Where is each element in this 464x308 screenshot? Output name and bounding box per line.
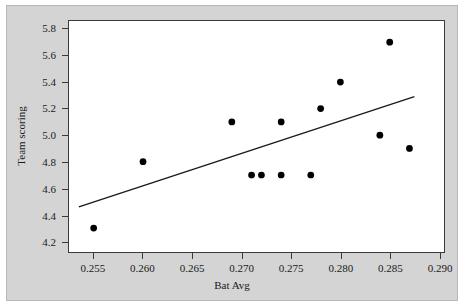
y-axis-tick-mark <box>62 82 68 83</box>
data-point <box>307 172 314 179</box>
regression-line <box>79 97 415 207</box>
x-axis-tick-mark <box>142 253 143 259</box>
y-axis-tick-label: 5.4 <box>22 76 56 88</box>
x-axis-tick-label: 0.260 <box>130 262 155 274</box>
y-axis-tick-mark <box>62 189 68 190</box>
y-axis-tick-mark <box>62 108 68 109</box>
data-point <box>140 158 147 165</box>
y-axis-tick-label: 5.6 <box>22 49 56 61</box>
x-axis-tick-mark <box>341 253 342 259</box>
y-axis-tick-label: 4.8 <box>22 156 56 168</box>
y-axis-tick-mark <box>62 242 68 243</box>
y-axis-tick-mark <box>62 162 68 163</box>
y-axis-tick-label: 4.6 <box>22 183 56 195</box>
data-point <box>248 172 255 179</box>
x-axis-tick-label: 0.280 <box>328 262 353 274</box>
data-point <box>386 39 393 46</box>
y-axis-tick-label: 4.4 <box>22 210 56 222</box>
x-axis-title: Bat Avg <box>0 279 464 291</box>
plot-area <box>68 20 445 253</box>
x-axis-tick-label: 0.285 <box>378 262 403 274</box>
x-axis-tick-mark <box>440 253 441 259</box>
x-axis-tick-label: 0.265 <box>180 262 205 274</box>
x-axis-tick-mark <box>390 253 391 259</box>
data-point <box>278 172 285 179</box>
scatter-plot-figure: 4.24.44.64.85.05.25.45.65.8 0.2550.2600.… <box>0 0 464 308</box>
data-point <box>228 119 235 126</box>
data-point <box>90 225 97 232</box>
x-axis-tick-label: 0.255 <box>80 262 105 274</box>
y-axis-tick-mark <box>62 55 68 56</box>
x-axis-tick-label: 0.275 <box>279 262 304 274</box>
data-point <box>317 105 324 112</box>
x-axis-tick-label: 0.270 <box>229 262 254 274</box>
y-axis-tick-mark <box>62 28 68 29</box>
y-axis-tick-label: 5.8 <box>22 22 56 34</box>
x-axis-tick-mark <box>192 253 193 259</box>
y-axis-tick-label: 5.2 <box>22 102 56 114</box>
x-axis-tick-label: 0.290 <box>428 262 453 274</box>
plot-canvas <box>69 21 444 252</box>
data-point <box>406 145 413 152</box>
data-point <box>258 172 265 179</box>
x-axis-tick-mark <box>242 253 243 259</box>
x-axis-tick-mark <box>93 253 94 259</box>
y-axis-tick-mark <box>62 216 68 217</box>
data-point <box>337 79 344 86</box>
y-axis-title: Team scoring <box>15 81 27 191</box>
y-axis-tick-label: 5.0 <box>22 129 56 141</box>
y-axis-tick-mark <box>62 135 68 136</box>
data-point <box>278 119 285 126</box>
y-axis-tick-label: 4.2 <box>22 236 56 248</box>
data-point <box>376 132 383 139</box>
x-axis-tick-mark <box>291 253 292 259</box>
